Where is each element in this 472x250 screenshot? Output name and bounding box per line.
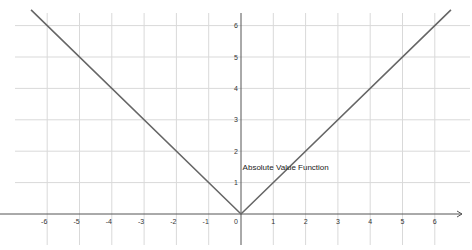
- x-tick-label: -3: [138, 218, 144, 225]
- x-tick-label: 6: [433, 218, 437, 225]
- y-tick-label: 5: [234, 54, 238, 61]
- y-tick-label: 4: [234, 85, 238, 92]
- x-tick-label: 2: [304, 218, 308, 225]
- y-tick-label: 6: [234, 22, 238, 29]
- x-tick-label: 5: [401, 218, 405, 225]
- y-tick-label: 2: [234, 148, 238, 155]
- x-tick-label: -4: [106, 218, 112, 225]
- function-label: Absolute Value Function: [243, 163, 329, 172]
- x-tick-label: -5: [73, 218, 79, 225]
- function-graph: -6-5-4-3-2-10123456123456 Absolute Value…: [0, 0, 472, 250]
- y-tick-label: 1: [234, 179, 238, 186]
- x-tick-label: 3: [336, 218, 340, 225]
- x-tick-label: -6: [41, 218, 47, 225]
- y-tick-label: 3: [234, 116, 238, 123]
- x-tick-label: 4: [368, 218, 372, 225]
- x-tick-label: 0: [234, 218, 238, 225]
- tick-labels: -6-5-4-3-2-10123456123456: [41, 22, 437, 225]
- x-tick-label: 1: [271, 218, 275, 225]
- x-tick-label: -1: [203, 218, 209, 225]
- grid-lines: [15, 13, 470, 245]
- x-tick-label: -2: [170, 218, 176, 225]
